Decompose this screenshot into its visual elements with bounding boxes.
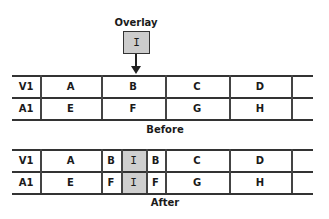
divider xyxy=(12,119,313,121)
track-label-a1: A1 xyxy=(12,171,40,193)
track-label-v1: V1 xyxy=(12,75,40,97)
clip: B xyxy=(146,149,165,171)
clip: D xyxy=(229,75,291,97)
clip: E xyxy=(40,171,101,193)
before-caption: Before xyxy=(135,124,195,135)
clip: A xyxy=(40,75,101,97)
divider xyxy=(291,149,293,193)
overlay-clip-label: I xyxy=(133,36,140,49)
overlay-title: Overlay xyxy=(110,17,162,28)
after-caption: After xyxy=(135,197,195,208)
before-timeline: V1 A B C D A1 E F G H xyxy=(12,75,313,119)
overlay-clip: I xyxy=(123,31,150,54)
after-timeline: V1 A B I B C D A1 E F I F G H xyxy=(12,149,313,193)
track-label-a1: A1 xyxy=(12,97,40,119)
clip-inserted: I xyxy=(121,149,146,171)
clip: F xyxy=(146,171,165,193)
clip: F xyxy=(101,171,121,193)
clip: C xyxy=(165,149,229,171)
clip: G xyxy=(165,171,229,193)
clip: C xyxy=(165,75,229,97)
clip: A xyxy=(40,149,101,171)
clip: H xyxy=(229,97,291,119)
clip: B xyxy=(101,75,165,97)
clip: B xyxy=(101,149,121,171)
clip-inserted: I xyxy=(121,171,146,193)
arrow-head-icon xyxy=(131,66,141,74)
divider xyxy=(291,75,293,119)
clip: H xyxy=(229,171,291,193)
track-label-v1: V1 xyxy=(12,149,40,171)
clip: E xyxy=(40,97,101,119)
clip: G xyxy=(165,97,229,119)
divider xyxy=(12,193,313,195)
clip: D xyxy=(229,149,291,171)
clip: F xyxy=(101,97,165,119)
